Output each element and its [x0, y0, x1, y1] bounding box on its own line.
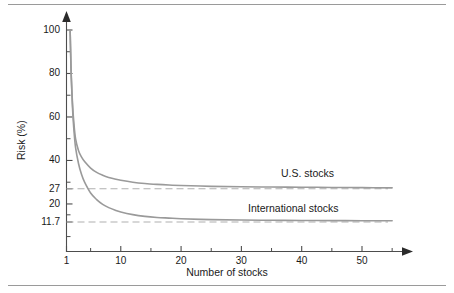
asymptote-reference-lines — [67, 189, 389, 222]
x-axis-arrowhead — [402, 247, 413, 256]
y-tick-label: 20 — [14, 199, 60, 209]
series-label-us-stocks: U.S. stocks — [281, 168, 334, 179]
x-tick-label: 40 — [296, 256, 307, 266]
y-axis-arrowhead — [62, 11, 71, 22]
x-tick-label: 50 — [356, 256, 367, 266]
y-tick-label: 80 — [14, 68, 60, 78]
x-tick-label: 10 — [115, 256, 126, 266]
curve-us-stocks — [70, 30, 392, 188]
x-tick-label: 30 — [236, 256, 247, 266]
y-tick-label: 27 — [14, 184, 60, 194]
risk-curves — [70, 30, 392, 221]
y-axis-minor-ticks — [67, 52, 71, 237]
series-label-international-stocks: International stocks — [248, 203, 338, 214]
y-tick-label: 11.7 — [14, 217, 60, 227]
x-tick-label: 20 — [176, 256, 187, 266]
figure-container: 100806040272011.7 11020304050 Risk (%) N… — [0, 0, 454, 293]
y-axis-major-ticks — [67, 30, 73, 222]
x-axis-title: Number of stocks — [186, 267, 268, 278]
y-tick-label: 100 — [14, 25, 60, 35]
chart-plot-area — [0, 0, 454, 293]
curve-international-stocks — [70, 30, 392, 221]
y-axis-title: Risk (%) — [16, 120, 27, 160]
x-tick-label: 1 — [64, 256, 70, 266]
